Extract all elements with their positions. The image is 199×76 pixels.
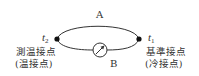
temp-subscript: 2 [45, 37, 49, 45]
wire-b-right [107, 39, 139, 50]
cold-junction-label: (冷接点) [145, 58, 182, 69]
wire-a-label: A [96, 9, 103, 20]
wire-b-left [57, 39, 93, 50]
t1-label: t1 [148, 32, 155, 47]
wire-b-label: B [110, 58, 117, 69]
measuring-junction-label: 測温接点 [16, 46, 56, 57]
cold-junction-dot [136, 36, 141, 41]
t2-label: t2 [42, 32, 49, 47]
reference-junction-label: 基準接点 [146, 46, 186, 57]
hot-junction-dot [54, 36, 59, 41]
galvanometer-icon [93, 43, 107, 57]
hot-junction-label: (温接点) [15, 58, 52, 69]
wire-a [57, 26, 139, 39]
temp-subscript: 1 [151, 37, 155, 45]
